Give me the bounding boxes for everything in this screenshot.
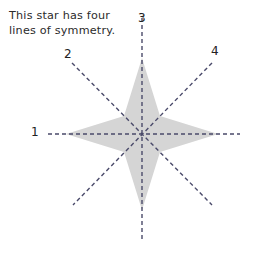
symmetry-line-label-1: 1 xyxy=(31,125,39,139)
symmetry-line-label-3: 3 xyxy=(138,11,146,25)
symmetry-line-label-2: 2 xyxy=(64,47,72,61)
symmetry-line-label-4: 4 xyxy=(211,44,219,58)
caption-text: This star has four lines of symmetry. xyxy=(9,8,139,38)
diagram-canvas: This star has four lines of symmetry. 1 … xyxy=(0,0,254,254)
